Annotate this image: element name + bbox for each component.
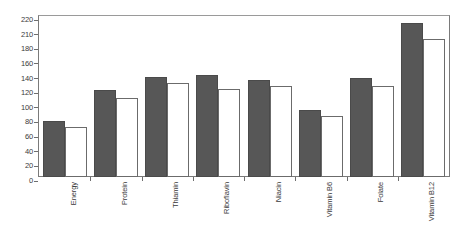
x-axis-tick-mark bbox=[398, 177, 399, 181]
x-axis-tick-mark bbox=[193, 177, 194, 181]
bar-series-2 bbox=[65, 127, 87, 177]
x-axis-tick-mark bbox=[142, 177, 143, 181]
y-axis-tick: 40 bbox=[0, 147, 38, 157]
bar-series-2 bbox=[218, 89, 240, 177]
x-axis-category-label: Thiamin bbox=[171, 182, 180, 208]
y-axis-tick-mark bbox=[34, 122, 38, 123]
x-axis-category-label: Vitamin B6 bbox=[325, 182, 334, 217]
y-axis-tick: 180 bbox=[0, 44, 38, 54]
bar-group bbox=[398, 16, 449, 177]
x-axis-tick-mark bbox=[347, 177, 348, 181]
bar-series-1 bbox=[94, 90, 116, 177]
bar-series-1 bbox=[248, 80, 270, 177]
y-axis-tick-mark bbox=[34, 137, 38, 138]
y-axis: 220210180160140120100806040200 bbox=[0, 10, 38, 182]
y-axis-tick-mark bbox=[34, 107, 38, 108]
bars-layer bbox=[39, 16, 449, 177]
x-axis-tick-mark bbox=[244, 177, 245, 181]
y-axis-tick-mark bbox=[34, 63, 38, 64]
x-axis-tick-mark bbox=[90, 177, 91, 181]
x-axis-category-label: Vitamin B12 bbox=[427, 182, 436, 221]
y-axis-tick: 60 bbox=[0, 132, 38, 142]
bar-series-2 bbox=[372, 86, 394, 177]
x-axis-category-label: Riboflavin bbox=[222, 182, 231, 214]
bar-series-2 bbox=[270, 86, 292, 177]
x-axis-category-label: Protein bbox=[120, 182, 129, 205]
y-axis-tick: 210 bbox=[0, 30, 38, 40]
bar-series-2 bbox=[321, 116, 343, 177]
bar-series-1 bbox=[43, 121, 65, 177]
y-axis-tick: 140 bbox=[0, 74, 38, 84]
y-axis-tick-mark bbox=[34, 20, 38, 21]
bar-series-1 bbox=[196, 75, 218, 177]
y-axis-tick: 100 bbox=[0, 103, 38, 113]
bar-series-1 bbox=[299, 110, 321, 177]
bar-group bbox=[347, 16, 398, 177]
bar-series-1 bbox=[145, 77, 167, 177]
y-axis-tick: 220 bbox=[0, 15, 38, 25]
bar-group bbox=[90, 16, 141, 177]
bar-series-2 bbox=[167, 83, 189, 177]
x-axis-tick-mark bbox=[295, 177, 296, 181]
bar-chart: 220210180160140120100806040200 EnergyPro… bbox=[0, 0, 464, 242]
y-axis-tick: 0 bbox=[0, 176, 38, 186]
bar-group bbox=[295, 16, 346, 177]
y-axis-tick: 80 bbox=[0, 117, 38, 127]
y-axis-tick: 160 bbox=[0, 59, 38, 69]
y-axis-tick: 120 bbox=[0, 88, 38, 98]
y-axis-tick-mark bbox=[34, 166, 38, 167]
y-axis-tick-mark bbox=[34, 93, 38, 94]
x-axis-labels: EnergyProteinThiaminRiboflavinNiacinVita… bbox=[39, 182, 449, 242]
x-axis-category-label: Energy bbox=[69, 182, 78, 205]
y-axis-tick: 20 bbox=[0, 161, 38, 171]
bar-group bbox=[39, 16, 90, 177]
y-axis-tick-mark bbox=[34, 181, 38, 182]
x-axis-category-label: Folate bbox=[376, 182, 385, 202]
y-axis-tick-mark bbox=[34, 49, 38, 50]
bar-group bbox=[193, 16, 244, 177]
y-axis-tick-mark bbox=[34, 78, 38, 79]
bar-series-2 bbox=[423, 39, 445, 177]
bar-series-1 bbox=[350, 78, 372, 177]
y-axis-tick-mark bbox=[34, 151, 38, 152]
bar-group bbox=[244, 16, 295, 177]
bar-series-1 bbox=[401, 23, 423, 177]
y-axis-tick-mark bbox=[34, 34, 38, 35]
bar-group bbox=[142, 16, 193, 177]
bar-series-2 bbox=[116, 98, 138, 177]
x-axis-category-label: Niacin bbox=[274, 182, 283, 202]
